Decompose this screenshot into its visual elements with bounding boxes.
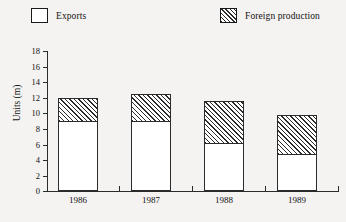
y-tick-mark (43, 113, 48, 114)
x-separator (119, 186, 120, 192)
y-tick-label-8: 8 (0, 125, 40, 134)
bar-segment-foreign-production-1986 (58, 98, 98, 121)
bar-1986[interactable] (58, 98, 98, 191)
bar-1988[interactable] (204, 101, 244, 191)
bar-segment-exports-1989 (277, 154, 317, 191)
bar-1987[interactable] (131, 94, 171, 191)
plot-area: Units (m) 18 16 14 12 10 8 6 4 2 0 (0, 40, 346, 222)
bar-segment-exports-1986 (58, 121, 98, 191)
legend-label-exports: Exports (56, 11, 86, 21)
x-separator (192, 186, 193, 192)
x-tick-label-1987: 1987 (121, 195, 181, 205)
y-tick-mark (43, 51, 48, 52)
y-tick-label-14: 14 (0, 78, 40, 87)
x-axis-line (47, 191, 339, 192)
chart-legend: Exports Foreign production (0, 8, 346, 30)
bar-segment-foreign-production-1989 (277, 115, 317, 155)
x-tick-label-1988: 1988 (194, 195, 254, 205)
x-separator (265, 186, 266, 192)
x-tick-label-1989: 1989 (267, 195, 327, 205)
y-tick-mark (43, 145, 48, 146)
y-tick-label-10: 10 (0, 109, 40, 118)
bar-segment-foreign-production-1988 (204, 101, 244, 143)
empty-box-icon (31, 8, 48, 23)
x-separator (47, 186, 48, 192)
y-tick-mark (43, 82, 48, 83)
y-tick-label-6: 6 (0, 141, 40, 150)
bar-segment-exports-1987 (131, 121, 171, 191)
legend-item-exports: Exports (31, 8, 86, 23)
hatched-box-icon (220, 8, 237, 23)
x-separator (338, 186, 339, 192)
y-tick-mark (43, 160, 48, 161)
y-tick-label-18: 18 (0, 47, 40, 56)
y-tick-mark (43, 176, 48, 177)
x-tick-label-1986: 1986 (48, 195, 108, 205)
y-tick-label-2: 2 (0, 172, 40, 181)
y-tick-label-0: 0 (0, 187, 40, 196)
bar-segment-exports-1988 (204, 143, 244, 191)
chart-figure: Exports Foreign production Units (m) 18 … (0, 0, 346, 222)
y-tick-mark (43, 129, 48, 130)
y-tick-label-12: 12 (0, 94, 40, 103)
y-tick-label-4: 4 (0, 156, 40, 165)
y-tick-mark (43, 98, 48, 99)
bar-1989[interactable] (277, 115, 317, 191)
y-tick-label-16: 16 (0, 63, 40, 72)
y-axis-line (47, 51, 48, 192)
y-tick-mark (43, 67, 48, 68)
legend-label-foreign-production: Foreign production (245, 11, 320, 21)
bar-segment-foreign-production-1987 (131, 94, 171, 121)
legend-item-foreign-production: Foreign production (220, 8, 320, 23)
